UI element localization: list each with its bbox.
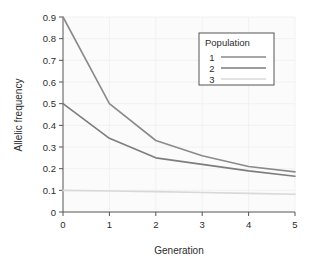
y-tick-label: 0.8 bbox=[43, 33, 56, 44]
y-tick-label: 0.5 bbox=[43, 98, 56, 109]
x-axis-tick-labels: 012345 bbox=[60, 219, 297, 230]
y-axis-title: Allelic frequency bbox=[13, 79, 24, 152]
line-chart: 00.10.20.30.40.50.60.70.80.9 012345 Gene… bbox=[0, 0, 317, 262]
x-axis-ticks bbox=[63, 212, 295, 216]
legend-label-1: 1 bbox=[209, 52, 214, 63]
chart-figure: 00.10.20.30.40.50.60.70.80.9 012345 Gene… bbox=[0, 0, 317, 262]
legend-label-3: 3 bbox=[209, 74, 214, 85]
y-tick-label: 0.6 bbox=[43, 77, 56, 88]
y-tick-label: 0.1 bbox=[43, 185, 56, 196]
y-axis-tick-labels: 00.10.20.30.40.50.60.70.80.9 bbox=[43, 12, 56, 218]
x-tick-label: 4 bbox=[246, 219, 251, 230]
y-axis-ticks bbox=[59, 17, 63, 212]
y-tick-label: 0.7 bbox=[43, 55, 56, 66]
x-tick-label: 3 bbox=[200, 219, 205, 230]
legend: Population 123 bbox=[199, 33, 274, 85]
legend-title: Population bbox=[205, 37, 250, 48]
legend-label-2: 2 bbox=[209, 63, 214, 74]
x-tick-label: 0 bbox=[60, 219, 65, 230]
x-tick-label: 2 bbox=[153, 219, 158, 230]
y-tick-label: 0.2 bbox=[43, 163, 56, 174]
x-axis-title: Generation bbox=[154, 245, 203, 256]
y-tick-label: 0.9 bbox=[43, 12, 56, 23]
y-tick-label: 0.4 bbox=[43, 120, 56, 131]
y-tick-label: 0 bbox=[51, 207, 56, 218]
x-tick-label: 1 bbox=[107, 219, 112, 230]
y-tick-label: 0.3 bbox=[43, 142, 56, 153]
x-tick-label: 5 bbox=[292, 219, 297, 230]
